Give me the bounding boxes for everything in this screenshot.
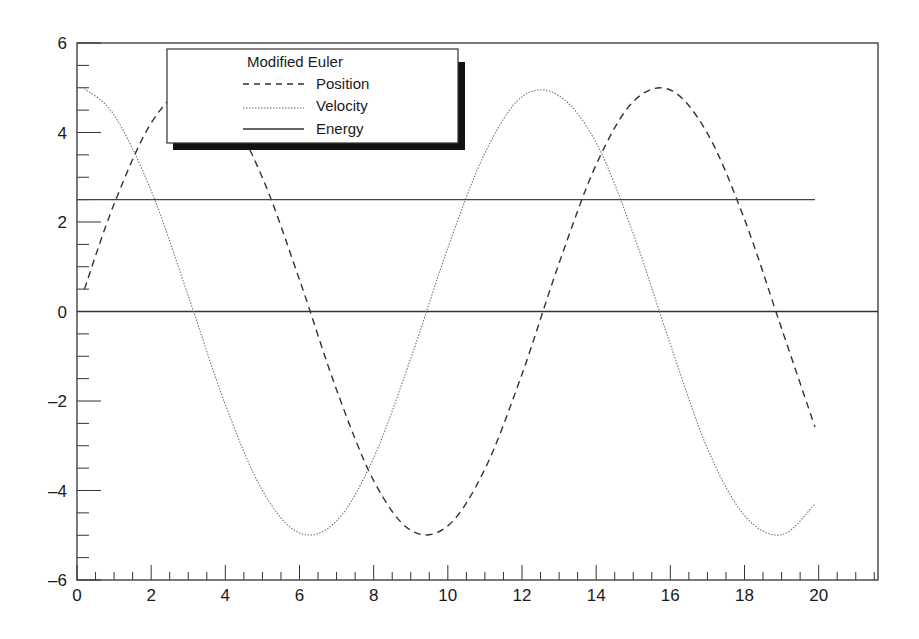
x-tick-label: 16	[661, 586, 680, 605]
x-tick-label: 0	[72, 586, 81, 605]
y-tick-label: 4	[58, 124, 67, 143]
legend-label-position: Position	[316, 75, 369, 92]
x-tick-label: 10	[438, 586, 457, 605]
y-tick-label: –4	[48, 482, 67, 501]
x-tick-label: 12	[513, 586, 532, 605]
x-axis-tick-labels: 02468101214161820	[72, 586, 828, 605]
x-tick-label: 18	[735, 586, 754, 605]
y-tick-label: –2	[48, 392, 67, 411]
legend-label-velocity: Velocity	[316, 97, 368, 114]
legend: Modified Euler Position Velocity Energy	[167, 49, 465, 150]
x-tick-label: 20	[809, 586, 828, 605]
y-tick-label: 2	[58, 213, 67, 232]
y-tick-label: 6	[58, 34, 67, 53]
legend-label-energy: Energy	[316, 120, 364, 137]
chart: 02468101214161820 –6–4–20246 Modified Eu…	[0, 0, 919, 639]
x-tick-label: 14	[587, 586, 606, 605]
y-tick-label: –6	[48, 571, 67, 590]
y-axis-tick-labels: –6–4–20246	[48, 34, 67, 590]
y-tick-label: 0	[58, 303, 67, 322]
x-tick-label: 2	[146, 586, 155, 605]
x-tick-label: 4	[221, 586, 230, 605]
x-tick-label: 6	[295, 586, 304, 605]
legend-title: Modified Euler	[247, 53, 343, 70]
x-tick-label: 8	[369, 586, 378, 605]
